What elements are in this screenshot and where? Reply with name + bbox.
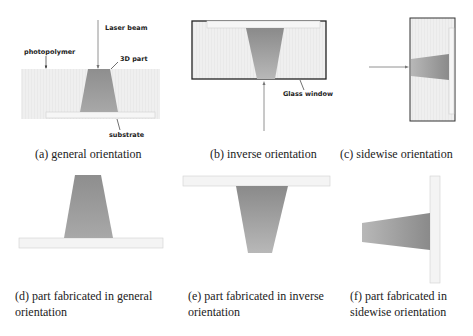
- label-3d-part: 3D part: [120, 55, 148, 63]
- part-pointer: [111, 62, 118, 69]
- panel-d-part-general: (d) part fabricated in general orientati…: [15, 175, 163, 319]
- substrate-plate-vertical: [449, 28, 454, 114]
- label-substrate: substrate: [109, 131, 145, 139]
- caption-f-line2: sidewise orientation: [350, 305, 446, 319]
- fabricated-part: [362, 213, 430, 250]
- laser-arrowhead: [97, 65, 100, 69]
- photopolymer-arrowhead: [45, 66, 47, 70]
- build-platform: [207, 21, 320, 28]
- window-pointer: [300, 80, 304, 90]
- caption-c: (c) sidewise orientation: [340, 147, 453, 161]
- caption-d-line2: orientation: [15, 305, 67, 319]
- fabricated-part: [236, 186, 288, 253]
- caption-e-line2: orientation: [188, 305, 240, 319]
- caption-b: (b) inverse orientation: [210, 147, 317, 161]
- caption-e-line1: (e) part fabricated in inverse: [188, 289, 324, 303]
- build-platform: [183, 176, 330, 186]
- panel-a-general-orientation: Laser beam photopolymer 3D part substrat…: [21, 20, 160, 161]
- substrate-plate: [19, 238, 163, 248]
- panel-e-part-inverse: (e) part fabricated in inverse orientati…: [183, 176, 330, 319]
- label-glass-window: Glass window: [283, 90, 333, 98]
- caption-d-line1: (d) part fabricated in general: [15, 289, 153, 303]
- substrate-pointer: [117, 119, 120, 130]
- substrate-plate: [46, 112, 155, 118]
- label-photopolymer: photopolymer: [24, 48, 76, 56]
- panel-c-sidewise-orientation: (c) sidewise orientation: [340, 18, 455, 161]
- laser-arrowhead: [263, 81, 266, 85]
- label-laser-beam: Laser beam: [105, 24, 148, 32]
- fabricated-part: [64, 175, 113, 238]
- laser-arrowhead: [405, 66, 409, 69]
- panel-f-part-sidewise: (f) part fabricated in sidewise orientat…: [350, 176, 447, 319]
- panel-b-inverse-orientation: Glass window (b) inverse orientation: [192, 21, 333, 161]
- stereolithography-orientation-figure: Laser beam photopolymer 3D part substrat…: [0, 0, 473, 336]
- caption-a: (a) general orientation: [35, 147, 142, 161]
- caption-f-line1: (f) part fabricated in: [350, 289, 447, 303]
- substrate-plate-vertical: [430, 176, 440, 283]
